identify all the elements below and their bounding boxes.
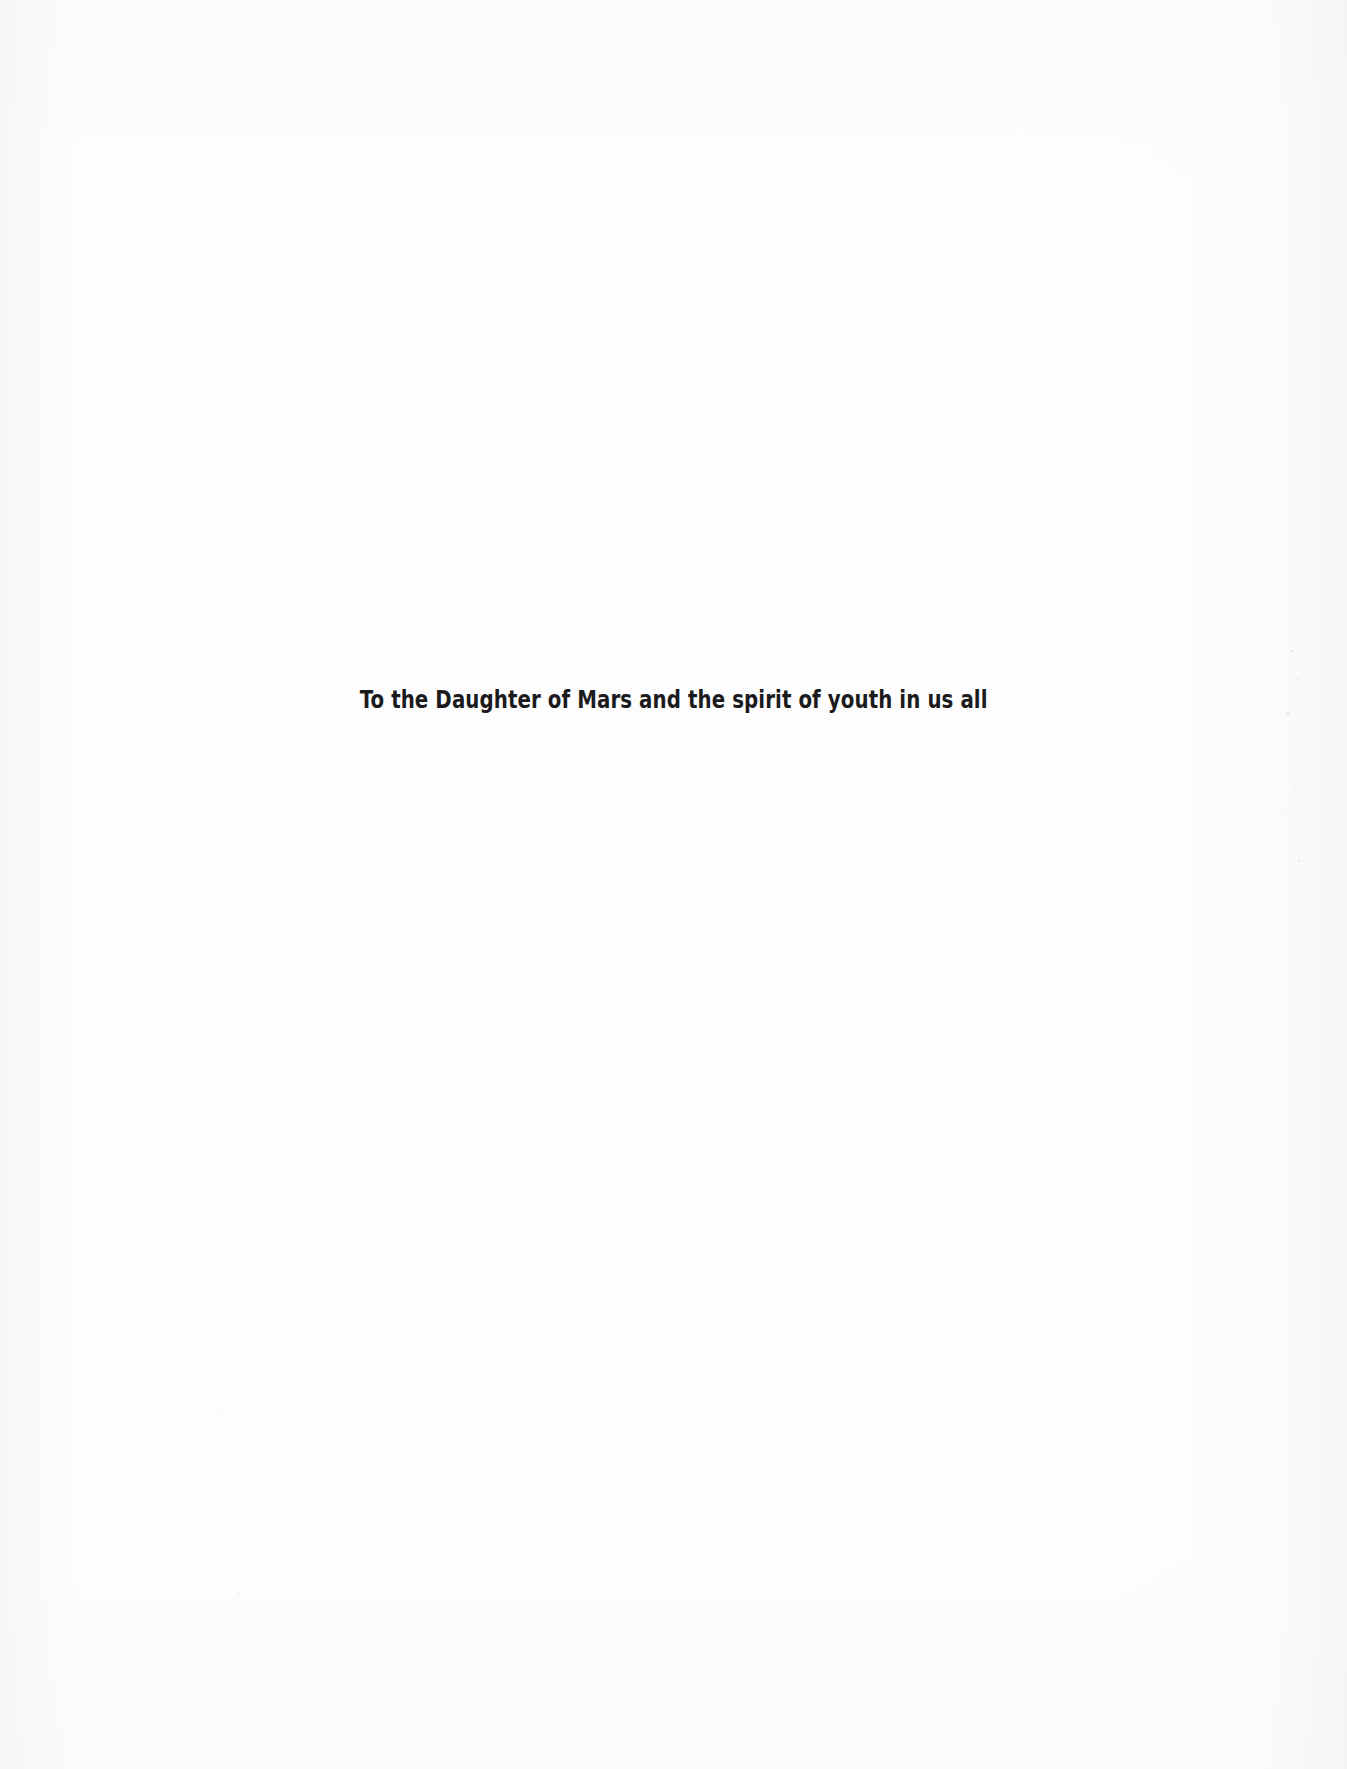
dedication-text: To the Daughter of Mars and the spirit o… <box>360 685 988 715</box>
dedication-block: To the Daughter of Mars and the spirit o… <box>0 660 1347 740</box>
scanned-page: To the Daughter of Mars and the spirit o… <box>0 0 1347 1769</box>
scan-speckle-artifacts <box>0 0 1347 1769</box>
paper-texture <box>0 0 1347 1769</box>
